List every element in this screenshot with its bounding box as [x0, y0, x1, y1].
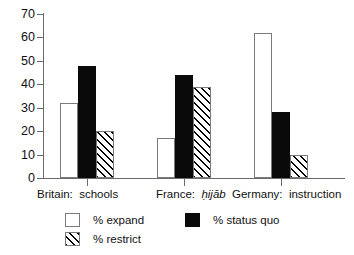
y-tick-0: [37, 178, 43, 179]
bar-britain-status: [78, 66, 96, 178]
y-tick-label-10: 10: [0, 149, 35, 161]
black-square-swatch-icon: [185, 213, 200, 227]
y-tick-label-30: 30: [0, 102, 35, 114]
hatched-square-swatch-icon: [65, 232, 80, 246]
y-tick-40: [37, 84, 43, 85]
y-tick-10: [37, 155, 43, 156]
white-square-swatch-icon: [65, 213, 80, 227]
chart-legend: % expand % status quo % restrict: [0, 210, 354, 255]
x-tick-britain: [87, 179, 88, 186]
category-term-france: ḥijāb: [201, 188, 225, 200]
bar-germany-status: [272, 112, 290, 178]
bar-britain-restrict: [96, 131, 114, 178]
bar-britain-expand: [60, 103, 78, 178]
x-tick-france: [184, 179, 185, 186]
y-tick-30: [37, 108, 43, 109]
category-term-britain: schools: [79, 188, 118, 200]
bar-france-restrict: [193, 87, 211, 178]
category-label-britain: Britain: schools: [37, 188, 118, 201]
y-tick-60: [37, 37, 43, 38]
bar-chart: 70 60 50 40 30 20 10 0 Britain: schools …: [0, 0, 354, 255]
y-tick-label-70: 70: [0, 8, 35, 20]
bar-germany-expand: [254, 33, 272, 178]
legend-label-status-quo: % status quo: [213, 213, 279, 227]
category-country-britain: Britain:: [37, 188, 73, 200]
y-tick-label-40: 40: [0, 78, 35, 90]
y-tick-20: [37, 131, 43, 132]
legend-label-restrict: % restrict: [93, 232, 141, 246]
y-tick-label-50: 50: [0, 55, 35, 67]
category-label-germany: Germany: instruction: [232, 188, 341, 201]
y-tick-50: [37, 61, 43, 62]
category-country-france: France:: [156, 188, 195, 200]
category-country-germany: Germany:: [232, 188, 283, 200]
bar-germany-restrict: [290, 155, 308, 178]
y-tick-label-60: 60: [0, 31, 35, 43]
category-term-germany: instruction: [289, 188, 341, 200]
bar-france-status: [175, 75, 193, 178]
y-tick-label-0: 0: [0, 172, 35, 184]
plot-area: [44, 14, 344, 178]
x-axis-line: [43, 178, 345, 179]
legend-label-expand: % expand: [93, 213, 144, 227]
x-tick-germany: [281, 179, 282, 186]
y-tick-label-20: 20: [0, 125, 35, 137]
bar-france-expand: [157, 138, 175, 178]
y-tick-70: [37, 14, 43, 15]
category-label-france: France: ḥijāb: [156, 188, 226, 201]
